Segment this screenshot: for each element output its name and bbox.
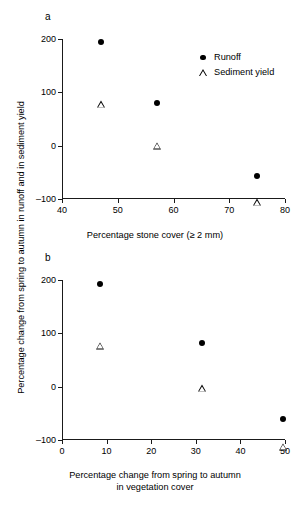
x-tick-mark [285, 199, 286, 203]
panel-b-x-axis-label-line2: in vegetation cover [20, 482, 290, 494]
x-tick-mark [151, 440, 152, 444]
x-tick-label: 0 [59, 447, 64, 456]
x-tick-label: 20 [146, 447, 156, 456]
x-tick-mark [240, 440, 241, 444]
panel-a-letter: a [45, 12, 51, 22]
y-tick-label: 100 [41, 88, 56, 97]
data-point-sediment-yield [253, 199, 261, 206]
panel-b-letter: b [45, 253, 51, 263]
data-point-runoff [98, 39, 104, 45]
y-tick-label: 200 [41, 276, 56, 285]
panel-b-plot-area: –1000100200 01020304050 [62, 280, 285, 440]
x-tick-label: 10 [102, 447, 112, 456]
x-tick-mark [229, 199, 230, 203]
panel-b-y-axis-line [62, 280, 63, 440]
x-tick-mark [62, 199, 63, 203]
x-tick-label: 30 [191, 447, 201, 456]
data-point-sediment-yield [198, 385, 206, 392]
data-point-sediment-yield [97, 101, 105, 108]
data-point-runoff [154, 100, 160, 106]
data-point-sediment-yield [279, 443, 287, 450]
open-triangle-icon [196, 69, 210, 76]
scatter-figure: Percentage change from spring to autumn … [0, 0, 297, 505]
x-tick-mark [118, 199, 119, 203]
y-tick-label: 200 [41, 35, 56, 44]
panel-b-x-axis-label: Percentage change from spring to autumn … [20, 470, 290, 493]
x-tick-label: 40 [235, 447, 245, 456]
x-tick-mark [107, 440, 108, 444]
legend-label-runoff: Runoff [214, 53, 241, 62]
filled-circle-icon [196, 55, 210, 60]
x-tick-label: 60 [168, 206, 178, 215]
x-tick-label: 80 [280, 206, 290, 215]
x-tick-label: 50 [113, 206, 123, 215]
legend-item-runoff: Runoff [196, 50, 274, 65]
x-tick-mark [174, 199, 175, 203]
y-tick-mark [58, 333, 62, 334]
y-tick-label: –100 [36, 436, 56, 445]
data-point-runoff [199, 340, 205, 346]
x-tick-mark [62, 440, 63, 444]
y-tick-mark [58, 39, 62, 40]
y-tick-mark [58, 387, 62, 388]
panel-b-x-axis-label-line1: Percentage change from spring to autumn [20, 470, 290, 482]
panel-a-y-axis-line [62, 39, 63, 199]
x-tick-mark [196, 440, 197, 444]
panel-a: a –1000100200 4050607080 Percentage ston… [0, 0, 297, 250]
legend: Runoff Sediment yield [196, 50, 274, 80]
y-tick-mark [58, 146, 62, 147]
y-tick-label: 100 [41, 329, 56, 338]
y-tick-label: 0 [51, 382, 56, 391]
x-tick-label: 70 [224, 206, 234, 215]
data-point-runoff [280, 416, 286, 422]
data-point-runoff [254, 173, 260, 179]
y-tick-mark [58, 280, 62, 281]
data-point-sediment-yield [153, 142, 161, 149]
legend-label-sediment-yield: Sediment yield [214, 68, 274, 77]
y-tick-mark [58, 92, 62, 93]
y-tick-label: 0 [51, 141, 56, 150]
data-point-sediment-yield [96, 342, 104, 349]
y-tick-label: –100 [36, 195, 56, 204]
legend-item-sediment-yield: Sediment yield [196, 65, 274, 80]
data-point-runoff [97, 281, 103, 287]
panel-b-x-axis-line [62, 439, 285, 440]
x-tick-label: 40 [57, 206, 67, 215]
panel-b-data-points [62, 280, 285, 301]
